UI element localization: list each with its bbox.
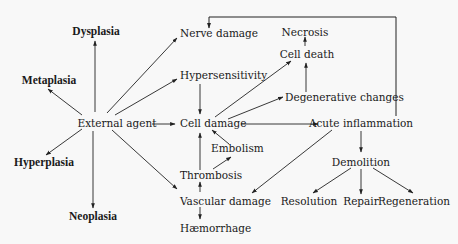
node-resolution: Resolution — [281, 195, 338, 207]
node-regeneration: Regeneration — [378, 195, 450, 207]
pathology-flow-diagram: Dysplasia Metaplasia Hyperplasia Neoplas… — [0, 0, 458, 244]
node-hypersensitivity: Hypersensitivity — [180, 69, 267, 81]
node-necrosis: Necrosis — [282, 26, 329, 38]
node-external-agent: External agent — [78, 117, 158, 129]
node-nerve-damage: Nerve damage — [180, 27, 258, 39]
node-embolism: Embolism — [211, 142, 264, 154]
node-cell-damage: Cell damage — [180, 117, 246, 129]
node-vascular-damage: Vascular damage — [179, 195, 271, 207]
node-dysplasia: Dysplasia — [72, 25, 120, 38]
node-repair: Repair — [343, 195, 379, 207]
node-cell-death: Cell death — [280, 48, 335, 60]
node-degenerative-changes: Degenerative changes — [285, 91, 404, 103]
node-thrombosis: Thrombosis — [180, 169, 242, 181]
node-acute-inflammation: Acute inflammation — [308, 117, 413, 129]
node-haemorrhage: Hæmorrhage — [180, 222, 251, 234]
node-neoplasia: Neoplasia — [69, 210, 117, 223]
node-demolition: Demolition — [332, 156, 391, 168]
node-hyperplasia: Hyperplasia — [14, 156, 74, 169]
node-metaplasia: Metaplasia — [22, 74, 77, 87]
